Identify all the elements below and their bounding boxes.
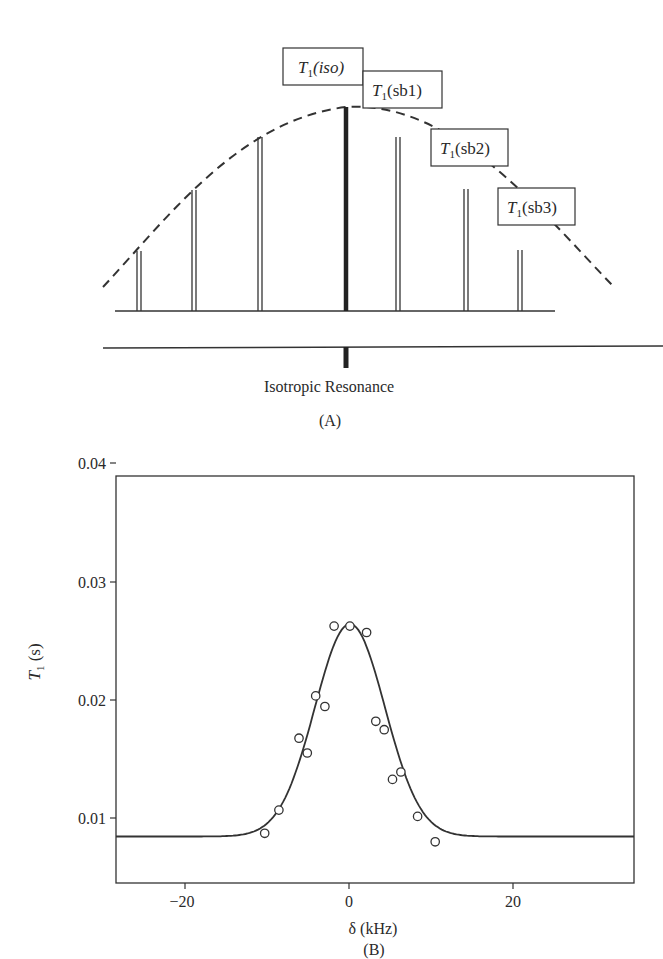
data-point <box>372 717 380 725</box>
y-tick-labels: 0.01 0.02 0.03 0.04 <box>78 455 106 827</box>
svg-text:T1(sb2): T1(sb2) <box>440 139 490 160</box>
label-t1-iso: T1(iso) <box>283 48 363 85</box>
gaussian-fit-curve <box>116 624 634 837</box>
isotropic-resonance-label: Isotropic Resonance <box>264 378 394 396</box>
figure: Isotropic Resonance (A) T1(iso) T1(sb1) … <box>0 0 663 959</box>
data-point <box>275 806 283 814</box>
svg-text:0.03: 0.03 <box>78 574 106 591</box>
panel-a-caption: (A) <box>319 412 341 430</box>
y-axis-ticks <box>110 463 116 818</box>
x-axis-ticks <box>185 883 513 889</box>
svg-text:T1(iso): T1(iso) <box>298 58 344 79</box>
plot-frame <box>116 476 634 883</box>
data-points <box>261 622 440 846</box>
panel-a: Isotropic Resonance (A) T1(iso) T1(sb1) … <box>103 48 663 430</box>
svg-text:0.01: 0.01 <box>78 810 106 827</box>
svg-text:T1(sb1): T1(sb1) <box>372 81 422 102</box>
data-point <box>261 829 269 837</box>
data-point <box>397 768 405 776</box>
label-t1-sb1: T1(sb1) <box>363 71 442 108</box>
data-point <box>312 692 320 700</box>
x-tick-labels: −20 0 20 <box>169 893 521 910</box>
y-axis-label: T1 (s) <box>25 643 46 680</box>
data-point <box>380 726 388 734</box>
svg-text:0.02: 0.02 <box>78 692 106 709</box>
data-point <box>330 622 338 630</box>
data-point <box>388 775 396 783</box>
data-point <box>431 838 439 846</box>
data-point <box>295 734 303 742</box>
svg-text:0.04: 0.04 <box>78 455 106 472</box>
svg-text:−20: −20 <box>169 893 194 910</box>
data-point <box>303 749 311 757</box>
svg-text:20: 20 <box>505 893 521 910</box>
x-axis-label: δ (kHz) <box>349 920 398 938</box>
data-point <box>413 812 421 820</box>
data-point <box>321 702 329 710</box>
svg-text:T1(sb3): T1(sb3) <box>507 198 557 219</box>
frequency-axis <box>103 346 663 348</box>
data-point <box>362 628 370 636</box>
panel-b-caption: (B) <box>363 941 384 959</box>
panel-b: 0.01 0.02 0.03 0.04 −20 0 20 δ (kHz) (B)… <box>25 455 634 959</box>
data-point <box>346 622 354 630</box>
label-t1-sb2: T1(sb2) <box>431 129 508 166</box>
label-t1-sb3: T1(sb3) <box>498 188 575 225</box>
svg-text:0: 0 <box>345 893 353 910</box>
